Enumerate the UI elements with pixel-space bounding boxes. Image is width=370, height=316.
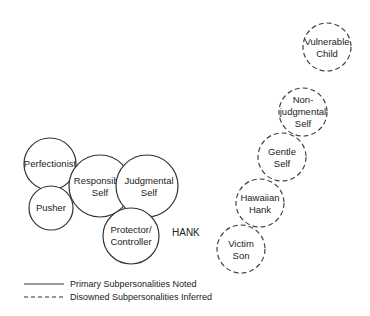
hawaiian-hank-label-line1: Hawaiian [240,192,279,203]
victim-son-node: Victim Son [217,225,265,273]
disowned-subpersonalities: Vulnerable Child Non- judgmental Self Ge… [217,23,351,273]
victim-son-label-line2: Son [233,250,250,261]
vulnerable-child-label-line2: Child [316,48,338,59]
pusher-label: Pusher [36,202,66,213]
primary-subpersonalities: Perfectionist Pusher Responsible Self Ju… [24,138,178,264]
protector-label-line1: Protector/ [110,224,152,235]
judgmental-self-label-line2: Self [141,187,158,198]
gentle-self-label-line1: Gentle [268,146,296,157]
victim-son-label-line1: Victim [228,238,254,249]
non-judgmental-label-line1: Non- [293,94,314,105]
hawaiian-hank-node: Hawaiian Hank [236,179,284,227]
judgmental-self-node: Judgmental Self [116,155,178,217]
non-judgmental-self-node: Non- judgmental Self [279,88,327,136]
responsible-self-label-line2: Self [92,187,109,198]
perfectionist-node: Perfectionist [24,138,77,190]
legend: Primary Subpersonalities Noted Disowned … [24,279,212,302]
protector-controller-node: Protector/ Controller [103,208,159,264]
gentle-self-node: Gentle Self [258,133,306,181]
vulnerable-child-node: Vulnerable Child [303,23,351,71]
protector-label-line2: Controller [110,236,151,247]
subpersonality-diagram: Perfectionist Pusher Responsible Self Ju… [0,0,370,316]
legend-dashed-label: Disowned Subpersonalities Inferred [70,292,212,302]
legend-solid-label: Primary Subpersonalities Noted [70,279,197,289]
subject-label: HANK [172,227,200,238]
gentle-self-label-line2: Self [274,158,291,169]
perfectionist-label: Perfectionist [24,158,77,169]
non-judgmental-label-line3: Self [295,118,312,129]
pusher-node: Pusher [29,186,73,230]
non-judgmental-label-line2: judgmental [279,106,326,117]
vulnerable-child-label-line1: Vulnerable [304,36,349,47]
hawaiian-hank-label-line2: Hank [249,204,271,215]
judgmental-self-label-line1: Judgmental [124,175,173,186]
